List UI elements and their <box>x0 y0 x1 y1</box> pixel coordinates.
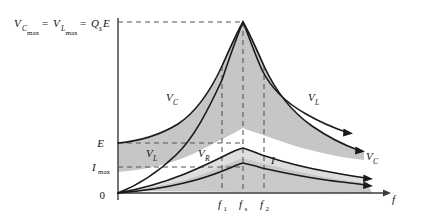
y-axis-labels: E I max 0 <box>91 137 111 201</box>
formula-q: Q <box>91 17 99 29</box>
formula-vl-sub-main: L <box>60 24 65 33</box>
formula-equals-1: = <box>42 17 48 29</box>
label-imax: I <box>91 161 97 173</box>
vl-arrowhead <box>343 129 353 137</box>
formula-q-sub: s <box>99 24 102 33</box>
x-axis-arrowhead <box>383 190 391 197</box>
label-origin: 0 <box>100 189 106 201</box>
label-fs: f <box>239 198 244 210</box>
label-f1-sub: 1 <box>224 205 228 213</box>
label-f2-sub: 2 <box>266 205 270 213</box>
label-f1: f <box>218 198 223 210</box>
label-imax-sub: max <box>98 168 111 176</box>
label-e: E <box>96 137 104 149</box>
resonance-svg: V C max = V L max = Q s E E I max 0 f 1 … <box>0 0 422 213</box>
top-left-formula: V C max = V L max = Q s E <box>14 17 110 37</box>
label-vc-right-sub: C <box>373 157 379 166</box>
formula-vl-var: V <box>53 17 61 29</box>
formula-vl-sub-min: max <box>66 29 79 37</box>
resonance-curve-figure: V C max = V L max = Q s E E I max 0 f 1 … <box>0 0 422 213</box>
label-vr-mid-sub: R <box>204 154 210 163</box>
label-f2: f <box>260 198 265 210</box>
x-axis-labels: f 1 f s f 2 f <box>218 193 397 213</box>
label-x-axis-name: f <box>392 193 397 205</box>
formula-vc-var: V <box>14 17 22 29</box>
label-vl-left-sub: L <box>152 154 157 163</box>
formula-equals-2: = <box>80 17 86 29</box>
label-vl-right-sub: L <box>314 98 319 107</box>
formula-e: E <box>102 17 110 29</box>
label-vc-left-sub: C <box>173 98 179 107</box>
formula-vc-sub-min: max <box>27 29 40 37</box>
label-fs-sub: s <box>245 205 248 213</box>
